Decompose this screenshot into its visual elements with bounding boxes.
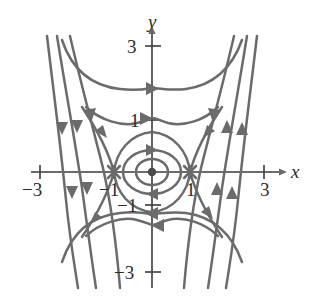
y-axis-label: y: [148, 12, 156, 31]
y-tick-label--1: −1: [117, 196, 137, 215]
x-axis-label: x: [291, 162, 299, 181]
center-point-origin: [148, 168, 156, 176]
x-tick-label--3: −3: [22, 180, 42, 199]
arrow-lower-inner-left: [151, 219, 164, 232]
y-tick-label-1: 1: [130, 111, 140, 130]
arrow-right-ascending-3: [226, 186, 238, 199]
x-tick-label-3: 3: [260, 180, 270, 199]
arrow-separatrix-upper-left-in: [95, 125, 107, 138]
arrow-left-descending-3b: [66, 186, 78, 199]
x-tick-label-1: 1: [186, 180, 196, 199]
y-tick-label--3: −3: [114, 263, 134, 282]
phase-portrait-figure: x y −3 −1 1 3 3 1 −1 −3: [0, 0, 320, 300]
arrow-upper-inner-right: [140, 112, 153, 125]
phase-portrait-canvas: [0, 0, 320, 300]
y-tick-label-3: 3: [127, 37, 137, 56]
